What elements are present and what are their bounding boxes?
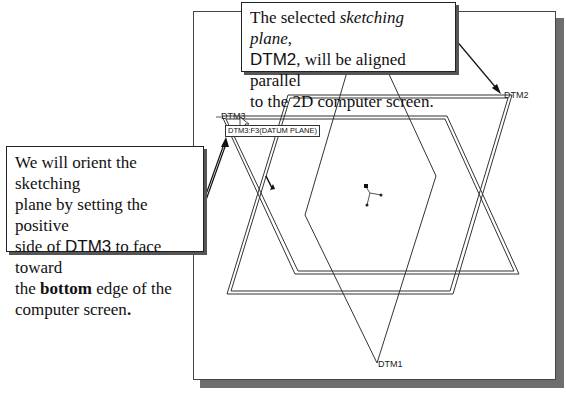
datum-plane-dtm3[interactable] bbox=[222, 116, 519, 274]
callout-arrow-dtm3 bbox=[204, 137, 229, 200]
datum-tooltip: DTM3:F3(DATUM PLANE) bbox=[225, 125, 320, 137]
callout-line: side of DTM3 to face toward bbox=[15, 236, 195, 278]
datum-label-dtm3[interactable]: DTM3 bbox=[221, 111, 246, 121]
callout-line: to the 2D computer screen. bbox=[250, 91, 447, 112]
callout-datum-name: DTM3 bbox=[65, 237, 111, 256]
datum-label-dtm1[interactable]: DTM1 bbox=[378, 359, 403, 369]
callout-text: the bbox=[15, 279, 40, 298]
callout-arrow-dtm2 bbox=[455, 39, 501, 94]
callout-text: computer screen bbox=[15, 300, 127, 319]
callout-text: The selected bbox=[250, 8, 340, 27]
csys-triad-icon bbox=[364, 184, 383, 207]
callout-bold-text: bottom bbox=[40, 279, 92, 298]
callout-sketching-plane: The selected sketching plane, DTM2, will… bbox=[241, 2, 456, 72]
callout-text: side of bbox=[15, 237, 65, 256]
callout-datum-name: DTM2 bbox=[250, 50, 296, 69]
callout-bold-text: . bbox=[127, 300, 131, 319]
callout-line: We will orient the sketching bbox=[15, 152, 195, 194]
callout-line: DTM2, will be aligned parallel bbox=[250, 49, 447, 91]
callout-line: plane by setting the positive bbox=[15, 194, 195, 236]
callout-text: edge of the bbox=[92, 279, 172, 298]
callout-line: computer screen. bbox=[15, 299, 195, 320]
callout-text: , bbox=[288, 29, 292, 48]
callout-line: The selected sketching plane, bbox=[250, 7, 447, 49]
direction-arrow-icon bbox=[266, 176, 275, 190]
datum-label-dtm2[interactable]: DTM2 bbox=[504, 90, 529, 100]
callout-orientation: We will orient the sketching plane by se… bbox=[6, 146, 204, 252]
callout-line: the bottom edge of the bbox=[15, 278, 195, 299]
